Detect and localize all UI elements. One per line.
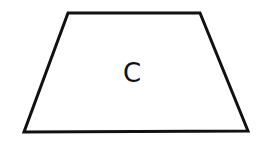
- shape-label: C: [123, 58, 141, 88]
- diagram-canvas: C: [0, 0, 265, 142]
